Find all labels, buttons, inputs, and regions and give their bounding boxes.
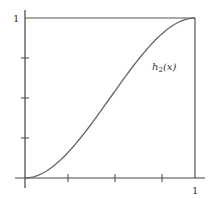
h2-curve [25, 18, 195, 178]
curve-label-argument: (x) [163, 61, 177, 72]
curve-label: h2(x) [152, 61, 176, 74]
chart: 1 1 h2(x) [0, 0, 214, 198]
y-tick-label-1: 1 [13, 13, 19, 24]
x-tick-label-1: 1 [192, 185, 198, 196]
